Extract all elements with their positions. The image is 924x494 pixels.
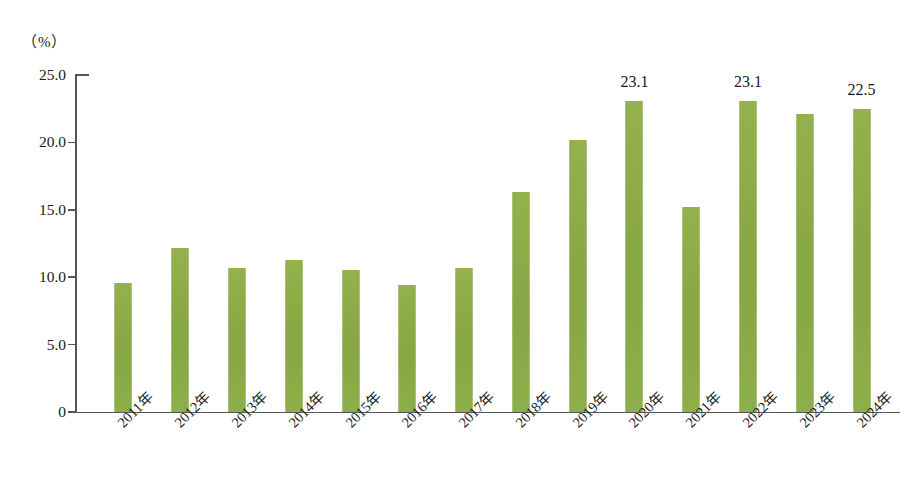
bars-layer: 23.123.122.5 <box>75 75 900 412</box>
y-tick-mark <box>68 142 75 144</box>
bar-value-label: 23.1 <box>620 74 648 90</box>
y-axis-unit-label: （%） <box>22 30 68 51</box>
x-label-slot: 2018年 <box>493 414 549 494</box>
bar[interactable] <box>285 260 302 412</box>
x-label-slot: 2022年 <box>720 414 776 494</box>
y-tick-label: 0 <box>58 404 66 420</box>
bar-slot <box>436 75 492 412</box>
x-label-slot: 2019年 <box>550 414 606 494</box>
bar-slot <box>777 75 833 412</box>
y-tick-mark <box>68 276 75 278</box>
bar[interactable] <box>456 268 473 412</box>
y-tick-mark <box>68 411 75 413</box>
bar[interactable] <box>512 192 529 412</box>
bar[interactable] <box>115 283 132 412</box>
bar-slot <box>95 75 151 412</box>
bar[interactable] <box>172 248 189 412</box>
bar[interactable] <box>569 140 586 412</box>
y-tick-label: 15.0 <box>39 202 66 218</box>
bar-slot: 23.1 <box>720 75 776 412</box>
bar[interactable] <box>796 114 813 412</box>
x-label-slot: 2015年 <box>323 414 379 494</box>
x-label-slot: 2024年 <box>834 414 890 494</box>
chart-title <box>180 0 600 6</box>
bar-value-label: 23.1 <box>734 74 762 90</box>
bar[interactable] <box>626 101 643 412</box>
x-axis-labels: 2011年2012年2013年2014年2015年2016年2017年2018年… <box>75 414 900 494</box>
bar[interactable] <box>853 109 870 412</box>
bar-slot <box>550 75 606 412</box>
x-label-slot: 2016年 <box>379 414 435 494</box>
y-tick-label: 10.0 <box>39 269 66 285</box>
bar[interactable] <box>740 101 757 412</box>
x-label-slot: 2021年 <box>663 414 719 494</box>
x-label-slot: 2012年 <box>152 414 208 494</box>
bar-slot <box>152 75 208 412</box>
y-tick-label: 25.0 <box>39 67 66 83</box>
bar-slot <box>266 75 322 412</box>
bar-slot <box>493 75 549 412</box>
bar[interactable] <box>683 207 700 412</box>
bar[interactable] <box>228 268 245 412</box>
x-label-slot: 2020年 <box>606 414 662 494</box>
x-label-slot: 2013年 <box>209 414 265 494</box>
x-label-slot: 2014年 <box>266 414 322 494</box>
x-label-slot: 2017年 <box>436 414 492 494</box>
y-tick-label: 20.0 <box>39 135 66 151</box>
bar-slot <box>209 75 265 412</box>
bar-chart: （%） 05.010.015.020.025.0 23.123.122.5 20… <box>0 0 924 494</box>
bar-slot: 22.5 <box>834 75 890 412</box>
y-tick-mark <box>68 209 75 211</box>
bar-slot <box>379 75 435 412</box>
y-tick-label: 5.0 <box>47 337 66 353</box>
plot-area: 05.010.015.020.025.0 23.123.122.5 <box>75 75 900 412</box>
bar-slot: 23.1 <box>606 75 662 412</box>
bar-slot <box>663 75 719 412</box>
bar[interactable] <box>399 285 416 412</box>
bar-value-label: 22.5 <box>848 82 876 98</box>
y-tick-mark <box>68 344 75 346</box>
bar-slot <box>323 75 379 412</box>
x-label-slot: 2023年 <box>777 414 833 494</box>
bar[interactable] <box>342 270 359 412</box>
x-label-slot: 2011年 <box>95 414 151 494</box>
